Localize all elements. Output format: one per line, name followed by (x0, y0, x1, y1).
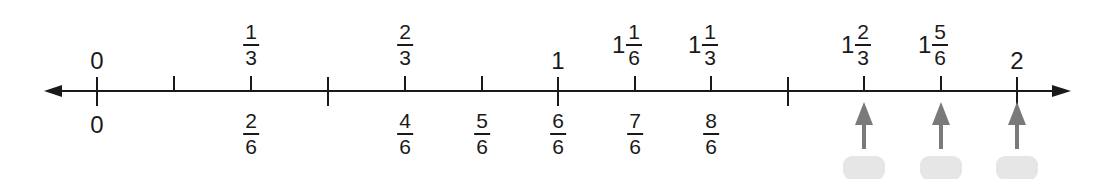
fraction: 66 (550, 110, 566, 157)
top-label: 2 (1010, 49, 1023, 73)
top-label: 156 (918, 21, 948, 68)
denominator: 3 (397, 46, 413, 68)
right-arrowhead-icon (1052, 85, 1071, 97)
mixed-number: 156 (918, 21, 948, 68)
numerator: 1 (243, 21, 259, 46)
bottom-label: 0 (90, 113, 103, 137)
whole-part: 1 (841, 33, 854, 57)
numerator: 1 (626, 21, 642, 46)
top-label: 116 (612, 21, 642, 68)
fraction: 86 (703, 110, 719, 157)
fraction: 26 (243, 110, 259, 157)
denominator: 6 (627, 135, 643, 157)
fraction: 13 (702, 21, 718, 68)
up-arrow-icon (932, 102, 950, 125)
mixed-number: 116 (612, 21, 642, 68)
denominator: 6 (703, 135, 719, 157)
top-label: 123 (841, 21, 871, 68)
numerator: 2 (243, 110, 259, 135)
answer-box[interactable] (996, 156, 1038, 179)
denominator: 3 (243, 46, 259, 68)
numerator: 2 (855, 21, 871, 46)
bottom-label: 26 (243, 110, 259, 157)
bottom-label: 76 (627, 110, 643, 157)
top-label: 13 (243, 21, 259, 68)
numerator: 8 (703, 110, 719, 135)
number-line-diagram: 0132311161131231562 0264656667686 (0, 0, 1107, 179)
whole-number: 0 (90, 47, 103, 74)
bottom-label: 86 (703, 110, 719, 157)
up-arrow-icon (855, 102, 873, 125)
fraction: 56 (474, 110, 490, 157)
numerator: 6 (550, 110, 566, 135)
whole-number: 0 (90, 111, 103, 138)
denominator: 6 (550, 135, 566, 157)
fraction: 56 (932, 21, 948, 68)
left-arrowhead-icon (44, 85, 62, 97)
fraction: 23 (397, 21, 413, 68)
denominator: 6 (243, 135, 259, 157)
answer-box[interactable] (920, 156, 962, 179)
mixed-number: 123 (841, 21, 871, 68)
whole-part: 1 (612, 33, 625, 57)
fraction: 76 (627, 110, 643, 157)
fraction: 23 (855, 21, 871, 68)
top-label: 23 (397, 21, 413, 68)
bottom-label: 66 (550, 110, 566, 157)
denominator: 3 (702, 46, 718, 68)
numerator: 7 (627, 110, 643, 135)
numerator: 5 (474, 110, 490, 135)
numerator: 1 (702, 21, 718, 46)
top-label: 0 (90, 49, 103, 73)
whole-part: 1 (688, 33, 701, 57)
denominator: 3 (855, 46, 871, 68)
denominator: 6 (474, 135, 490, 157)
numerator: 4 (397, 110, 413, 135)
numerator: 5 (932, 21, 948, 46)
answer-box[interactable] (843, 156, 885, 179)
fraction: 46 (397, 110, 413, 157)
top-label: 113 (688, 21, 718, 68)
numerator: 2 (397, 21, 413, 46)
whole-part: 1 (918, 33, 931, 57)
top-label: 1 (551, 49, 564, 73)
denominator: 6 (626, 46, 642, 68)
fraction: 13 (243, 21, 259, 68)
up-arrow-icon (1008, 102, 1026, 125)
bottom-label: 46 (397, 110, 413, 157)
mixed-number: 113 (688, 21, 718, 68)
whole-number: 1 (551, 47, 564, 74)
denominator: 6 (397, 135, 413, 157)
bottom-label: 56 (474, 110, 490, 157)
fraction: 16 (626, 21, 642, 68)
whole-number: 2 (1010, 47, 1023, 74)
denominator: 6 (932, 46, 948, 68)
